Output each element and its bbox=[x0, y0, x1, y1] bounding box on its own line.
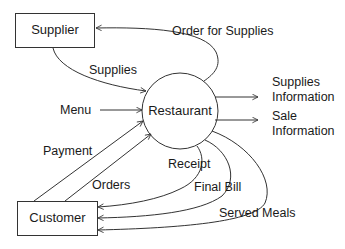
receipt-label: Receipt bbox=[168, 157, 210, 171]
menu-label: Menu bbox=[60, 103, 91, 117]
sale-information-line2: Information bbox=[272, 124, 335, 139]
supplies-information-line2: Information bbox=[272, 90, 335, 105]
restaurant-label: Restaurant bbox=[142, 103, 218, 118]
customer-label: Customer bbox=[17, 210, 98, 225]
flow-receipt-arrow bbox=[98, 146, 202, 207]
supplies-label: Supplies bbox=[89, 63, 137, 77]
sale-information-label: Sale Information bbox=[272, 109, 335, 139]
final-bill-label: Final Bill bbox=[194, 180, 241, 194]
served-meals-label: Served Meals bbox=[219, 206, 295, 220]
supplies-information-line1: Supplies bbox=[272, 75, 335, 90]
orders-label: Orders bbox=[92, 178, 130, 192]
supplier-label: Supplier bbox=[15, 22, 95, 37]
supplies-information-label: Supplies Information bbox=[272, 75, 335, 105]
sale-information-line1: Sale bbox=[272, 109, 335, 124]
order-for-supplies-label: Order for Supplies bbox=[172, 24, 273, 38]
payment-label: Payment bbox=[43, 144, 92, 158]
